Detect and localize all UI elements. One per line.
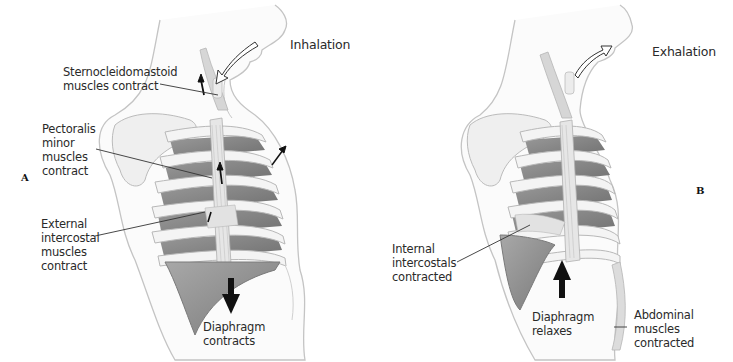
- respiration-diagram: Inhalation Sternocleidomastoid muscles c…: [0, 0, 733, 362]
- inhalation-title: Inhalation: [290, 38, 350, 52]
- exhalation-title: Exhalation: [652, 45, 716, 59]
- panel-b-figure: [457, 5, 632, 360]
- external-intercostal-label: External intercostal muscles contract: [41, 217, 99, 273]
- diaphragm-relaxes-label: Diaphragm relaxes: [532, 310, 594, 338]
- panel-a-figure: [95, 5, 305, 360]
- pectoralis-minor-label: Pectoralis minor muscles contract: [42, 122, 96, 178]
- panel-a-letter: A: [21, 172, 29, 183]
- anatomy-illustration: [0, 0, 733, 362]
- internal-intercostals-label: Internal intercostals contracted: [392, 242, 456, 284]
- sternocleidomastoid-label: Sternocleidomastoid muscles contract: [63, 65, 177, 93]
- abdominal-muscles-label: Abdominal muscles contracted: [634, 308, 694, 350]
- panel-b-letter: B: [696, 185, 704, 196]
- diaphragm-contracts-label: Diaphragm contracts: [203, 320, 265, 348]
